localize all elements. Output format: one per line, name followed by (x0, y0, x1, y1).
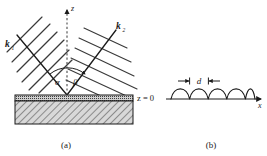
substrate-interface-strip (15, 95, 133, 101)
panel-a: k 1 k 2 (5, 4, 154, 150)
surface-z-equals-zero-label: z = 0 (137, 93, 154, 103)
k2-symbol: k (116, 21, 121, 31)
z-axis-label: z (70, 4, 75, 13)
angle-alpha-label: α (55, 77, 60, 87)
angle-beta-label: β (72, 77, 78, 87)
panel-b: d x (b) (166, 76, 262, 150)
figure-container: k 1 k 2 (0, 0, 267, 156)
panel-b-caption: (b) (206, 140, 217, 150)
k1-symbol: k (5, 39, 10, 49)
wavefronts-k2 (66, 28, 137, 101)
substrate-block (15, 95, 133, 124)
substrate-body (15, 101, 133, 124)
corrugated-surface (171, 89, 255, 99)
period-label-d: d (197, 76, 202, 86)
physics-figure: k 1 k 2 (0, 0, 267, 156)
wavefronts-k1 (7, 17, 72, 93)
k1-subscript: 1 (12, 45, 15, 51)
period-dimension-marker: d (178, 76, 220, 86)
wavevector-k2-label: k 2 (116, 21, 126, 33)
x-axis-label: x (257, 101, 262, 110)
k2-subscript: 2 (123, 27, 126, 33)
panel-a-caption: (a) (61, 140, 71, 150)
